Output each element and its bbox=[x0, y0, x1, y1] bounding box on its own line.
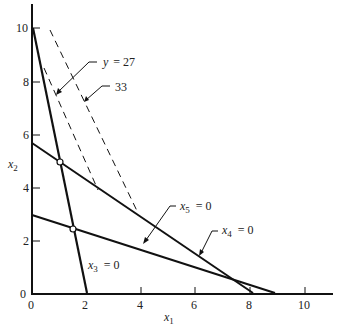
x-tick-6: 6 bbox=[191, 298, 197, 312]
x-tick-10: 10 bbox=[298, 298, 310, 312]
y-tick-6: 6 bbox=[23, 128, 29, 142]
label-y-27: y= 27 bbox=[102, 55, 135, 69]
label-x3-zero: x3= 0 bbox=[87, 258, 120, 274]
vertex-point-1 bbox=[57, 159, 63, 165]
x-tick-4: 4 bbox=[137, 298, 143, 312]
x-tick-8: 8 bbox=[246, 298, 252, 312]
arrowhead-icon bbox=[84, 96, 89, 102]
line-y-27 bbox=[44, 68, 98, 190]
label-x4-zero: x4= 0 bbox=[221, 223, 254, 239]
y-tick-8: 8 bbox=[23, 75, 29, 89]
label-y-33: 33 bbox=[115, 80, 127, 94]
x-ticks bbox=[141, 287, 305, 294]
y-tick-4: 4 bbox=[23, 181, 29, 195]
vertex-point-2 bbox=[70, 226, 76, 232]
line-x5-zero bbox=[32, 143, 253, 293]
label-x5-zero: x5= 0 bbox=[179, 199, 212, 215]
y-tick-0: 0 bbox=[20, 287, 26, 301]
arrowhead-icon bbox=[143, 237, 149, 244]
x-axis-label: x1 bbox=[163, 310, 174, 326]
x-tick-0: 0 bbox=[28, 298, 34, 312]
y-tick-2: 2 bbox=[23, 234, 29, 248]
arrowhead-icon bbox=[199, 249, 204, 256]
y-axis-label: x2 bbox=[7, 157, 18, 173]
y-tick-10: 10 bbox=[16, 21, 28, 35]
x-tick-2: 2 bbox=[82, 298, 88, 312]
pointer-y-33 bbox=[86, 86, 110, 100]
pointer-x4 bbox=[201, 231, 218, 253]
chart: 10 8 6 4 2 0 0 2 4 6 8 10 x1 x2 y= 27 33… bbox=[0, 0, 337, 330]
